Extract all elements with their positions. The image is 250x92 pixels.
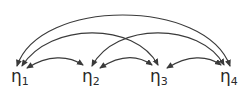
node-subscript: 4 xyxy=(231,75,238,88)
covariance-arrow-eta1-eta2 xyxy=(27,58,83,68)
node-subscript: 2 xyxy=(93,75,100,88)
node-subscript: 1 xyxy=(22,75,29,88)
node-eta-1: η1 xyxy=(11,68,29,87)
node-eta-3: η3 xyxy=(150,68,168,87)
covariance-arrow-eta3-eta4 xyxy=(167,58,221,68)
node-symbol: η xyxy=(220,66,231,86)
covariance-arrow-eta2-eta3 xyxy=(100,58,152,68)
node-symbol: η xyxy=(150,66,161,86)
covariance-path-diagram: η1 η2 η3 η4 xyxy=(0,0,250,92)
node-symbol: η xyxy=(82,66,93,86)
node-symbol: η xyxy=(11,66,22,86)
node-subscript: 3 xyxy=(161,75,168,88)
edges-layer xyxy=(0,0,250,92)
node-eta-4: η4 xyxy=(220,68,238,87)
node-eta-2: η2 xyxy=(82,68,100,87)
